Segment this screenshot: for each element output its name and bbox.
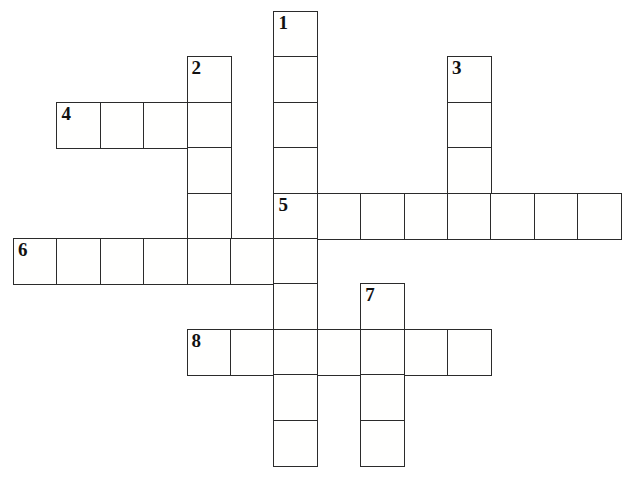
crossword-cell[interactable] — [273, 102, 318, 149]
crossword-cell[interactable] — [143, 102, 188, 149]
crossword-cell[interactable] — [490, 193, 535, 240]
crossword-cell-numbered-3[interactable]: 3 — [447, 56, 492, 103]
crossword-cell-numbered-8[interactable]: 8 — [187, 329, 232, 376]
crossword-cell[interactable] — [360, 374, 405, 421]
crossword-cell-numbered-1[interactable]: 1 — [273, 11, 318, 58]
crossword-cell[interactable] — [447, 329, 492, 376]
cell-number-7: 7 — [365, 284, 375, 305]
crossword-cell[interactable] — [187, 238, 232, 285]
crossword-cell-numbered-7[interactable]: 7 — [360, 283, 405, 330]
crossword-cell[interactable] — [273, 147, 318, 194]
crossword-cell[interactable] — [273, 420, 318, 467]
crossword-cell[interactable] — [143, 238, 188, 285]
crossword-cell[interactable] — [230, 238, 275, 285]
crossword-puzzle: 12345678 — [0, 0, 635, 481]
crossword-cell[interactable] — [230, 329, 275, 376]
crossword-cell[interactable] — [447, 102, 492, 149]
crossword-cell[interactable] — [360, 329, 405, 376]
crossword-cell[interactable] — [187, 102, 232, 149]
cell-number-5: 5 — [278, 194, 288, 215]
crossword-cell[interactable] — [360, 193, 405, 240]
crossword-cell-numbered-2[interactable]: 2 — [187, 56, 232, 103]
crossword-cell[interactable] — [187, 147, 232, 194]
crossword-cell[interactable] — [404, 329, 449, 376]
cell-number-8: 8 — [192, 330, 202, 351]
cell-number-3: 3 — [452, 57, 462, 78]
cell-number-6: 6 — [18, 239, 28, 260]
crossword-cell[interactable] — [577, 193, 622, 240]
crossword-cell[interactable] — [317, 329, 362, 376]
crossword-cell[interactable] — [273, 329, 318, 376]
cell-number-2: 2 — [192, 57, 202, 78]
crossword-cell[interactable] — [534, 193, 579, 240]
crossword-cell[interactable] — [273, 56, 318, 103]
crossword-cell[interactable] — [404, 193, 449, 240]
crossword-cell[interactable] — [273, 283, 318, 330]
cell-number-4: 4 — [61, 103, 71, 124]
crossword-cell[interactable] — [447, 193, 492, 240]
crossword-cell[interactable] — [273, 238, 318, 285]
crossword-cell[interactable] — [100, 102, 145, 149]
crossword-cell[interactable] — [447, 147, 492, 194]
crossword-cell-numbered-6[interactable]: 6 — [13, 238, 58, 285]
crossword-cell-numbered-5[interactable]: 5 — [273, 193, 318, 240]
crossword-grid: 12345678 — [0, 0, 635, 481]
crossword-cell[interactable] — [187, 193, 232, 240]
crossword-cell[interactable] — [317, 193, 362, 240]
crossword-cell[interactable] — [100, 238, 145, 285]
crossword-cell[interactable] — [273, 374, 318, 421]
crossword-cell-numbered-4[interactable]: 4 — [56, 102, 101, 149]
cell-number-1: 1 — [278, 12, 288, 33]
crossword-cell[interactable] — [360, 420, 405, 467]
crossword-cell[interactable] — [56, 238, 101, 285]
